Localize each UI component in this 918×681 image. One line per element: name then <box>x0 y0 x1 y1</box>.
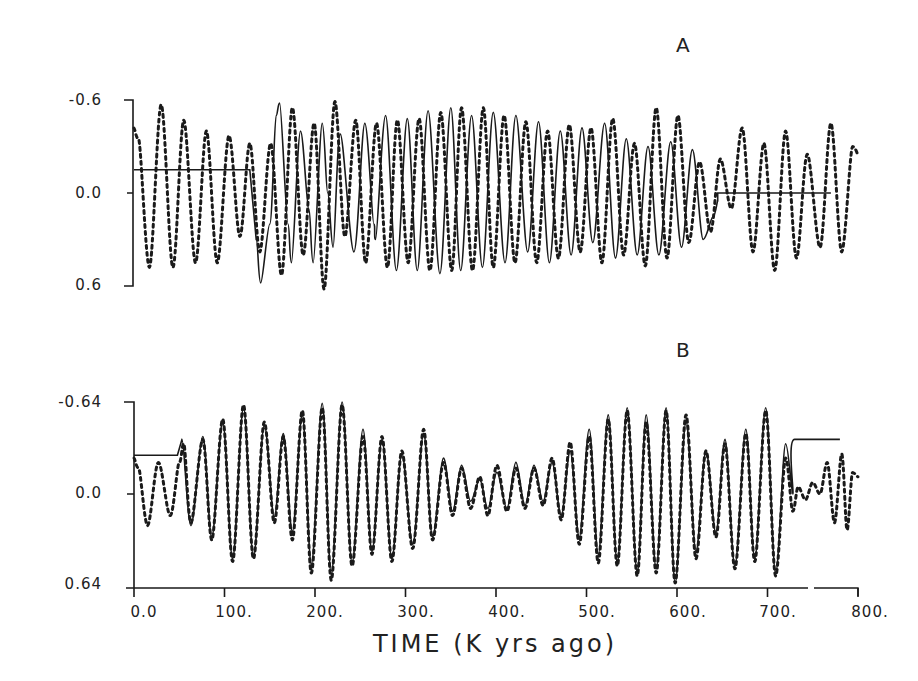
xtick-0: 0.0 <box>131 603 158 621</box>
panel-b-y-axis <box>124 402 134 588</box>
panel-a-plot <box>124 100 858 289</box>
panel-b-plot <box>124 402 858 597</box>
xtick-100: 100. <box>215 603 252 621</box>
panel-a-ytick-top: -0.6 <box>12 91 102 109</box>
xtick-500: 500. <box>578 603 615 621</box>
panel-b-letter: B <box>676 338 690 362</box>
series-dashed-line <box>134 405 858 583</box>
panel-a-y-axis <box>124 100 133 286</box>
xtick-300: 300. <box>397 603 434 621</box>
panel-a-series <box>134 102 858 290</box>
panel-a-ytick-bottom: 0.6 <box>12 276 102 294</box>
panel-b-series <box>134 402 858 583</box>
panel-b-ytick-top: -0.64 <box>12 393 102 411</box>
panel-b-x-axis <box>126 588 858 596</box>
xtick-200: 200. <box>306 603 343 621</box>
xtick-400: 400. <box>488 603 525 621</box>
xtick-600: 600. <box>669 603 706 621</box>
chart-canvas <box>0 0 918 681</box>
xtick-800: 800. <box>851 603 888 621</box>
panel-a-letter: A <box>676 33 690 57</box>
panel-b-x-ticks <box>134 588 858 597</box>
panel-a-ytick-mid: 0.0 <box>12 184 102 202</box>
panel-b-ytick-bottom: 0.64 <box>12 575 102 593</box>
x-axis-label: TIME (K yrs ago) <box>373 630 617 658</box>
xtick-700: 700. <box>759 603 796 621</box>
panel-b-ytick-mid: 0.0 <box>12 484 102 502</box>
